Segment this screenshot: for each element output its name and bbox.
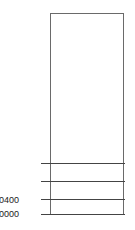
region-divider-2 [41, 181, 125, 182]
region-divider-0000 [41, 214, 125, 215]
address-label-0400: 0400 [0, 195, 19, 205]
address-label-0000: 0000 [0, 209, 19, 219]
region-divider-0400 [41, 199, 125, 200]
memory-map-box [50, 13, 124, 214]
region-divider-1 [41, 163, 125, 164]
